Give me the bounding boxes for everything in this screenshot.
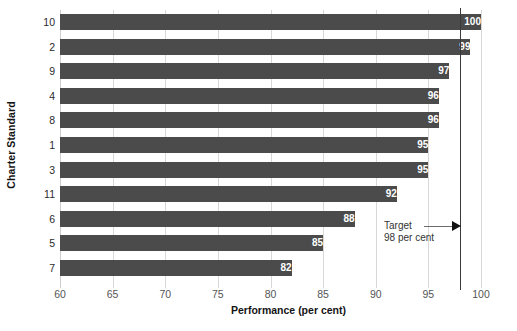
bar-value-label: 99 bbox=[60, 39, 474, 55]
bar-value-label: 100 bbox=[60, 14, 485, 30]
x-axis-tick-label: 100 bbox=[461, 288, 501, 300]
arrow-right-icon bbox=[452, 221, 461, 231]
bar-value-label: 96 bbox=[60, 88, 443, 104]
y-axis-tick-label: 2 bbox=[27, 39, 55, 55]
bar-value-label: 88 bbox=[60, 211, 359, 227]
y-axis-tick-label: 3 bbox=[27, 162, 55, 178]
x-axis-tick-label: 70 bbox=[145, 288, 185, 300]
target-annotation-line-1: Target bbox=[384, 220, 412, 231]
bar-row: 97 bbox=[60, 63, 481, 79]
target-annotation: Target 98 per cent bbox=[384, 220, 480, 250]
y-axis-tick-label: 9 bbox=[27, 63, 55, 79]
x-axis-tick-label: 65 bbox=[93, 288, 133, 300]
gridline bbox=[481, 10, 482, 288]
bar-value-label: 95 bbox=[60, 137, 432, 153]
y-axis-title: Charter Standard bbox=[0, 0, 22, 290]
bar-chart: Charter Standard 1029481311657 100999796… bbox=[0, 0, 517, 331]
bar-row: 82 bbox=[60, 260, 481, 276]
x-axis-tick-label: 95 bbox=[408, 288, 448, 300]
bar-row: 99 bbox=[60, 39, 481, 55]
bar-value-label: 95 bbox=[60, 162, 432, 178]
bar-row: 96 bbox=[60, 88, 481, 104]
y-axis-tick-label: 5 bbox=[27, 235, 55, 251]
y-axis-tick-label: 1 bbox=[27, 137, 55, 153]
bar-value-label: 96 bbox=[60, 112, 443, 128]
bar-row: 92 bbox=[60, 186, 481, 202]
bar-row: 95 bbox=[60, 162, 481, 178]
y-axis-tick-labels: 1029481311657 bbox=[22, 10, 55, 280]
x-axis-title-label: Performance (per cent) bbox=[231, 304, 346, 316]
x-axis-tick-label: 75 bbox=[198, 288, 238, 300]
x-axis-tick-label: 90 bbox=[356, 288, 396, 300]
bar-row: 95 bbox=[60, 137, 481, 153]
y-axis-tick-label: 10 bbox=[27, 14, 55, 30]
target-annotation-line-2: 98 per cent bbox=[384, 232, 434, 243]
bar-value-label: 85 bbox=[60, 235, 327, 251]
x-axis-tick-label: 80 bbox=[251, 288, 291, 300]
y-axis-title-label: Charter Standard bbox=[5, 101, 17, 188]
x-axis-tick-labels: 6065707580859095100 bbox=[60, 288, 481, 304]
y-axis-tick-label: 8 bbox=[27, 112, 55, 128]
bar-row: 100 bbox=[60, 14, 481, 30]
target-leader-line bbox=[424, 226, 454, 227]
y-axis-tick-label: 7 bbox=[27, 260, 55, 276]
y-axis-tick-label: 4 bbox=[27, 88, 55, 104]
bar-row: 96 bbox=[60, 112, 481, 128]
y-axis-tick-label: 11 bbox=[27, 186, 55, 202]
bar-value-label: 82 bbox=[60, 260, 296, 276]
x-axis-tick-label: 85 bbox=[303, 288, 343, 300]
bar-value-label: 97 bbox=[60, 63, 453, 79]
bar-value-label: 92 bbox=[60, 186, 401, 202]
y-axis-tick-label: 6 bbox=[27, 211, 55, 227]
x-axis-tick-label: 60 bbox=[40, 288, 80, 300]
x-axis-title: Performance (per cent) bbox=[60, 304, 517, 316]
